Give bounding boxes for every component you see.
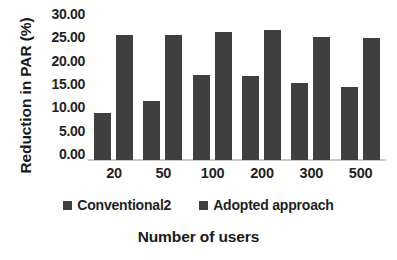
bar <box>313 37 330 160</box>
y-axis-tick-labels: 30.0025.0020.0015.0010.005.000.00 <box>38 12 85 168</box>
y-axis-tick-label: 25.00 <box>38 30 85 44</box>
y-axis-tick-label: 20.00 <box>38 54 85 68</box>
x-axis-tick-label: 50 <box>138 164 188 183</box>
legend-swatch-icon <box>63 201 72 210</box>
x-axis-tick-label: 200 <box>237 164 287 183</box>
bar <box>242 76 259 160</box>
bar-group <box>193 20 236 160</box>
bar-group <box>242 20 285 160</box>
x-axis-tick-label: 100 <box>188 164 238 183</box>
bar <box>116 35 133 160</box>
bar <box>363 38 380 160</box>
bar <box>291 83 308 160</box>
y-axis-tick-label: 30.00 <box>38 7 85 21</box>
bar-group <box>143 20 186 160</box>
x-axis-tick-label: 500 <box>336 164 386 183</box>
y-axis-tick-label: 5.00 <box>38 124 85 138</box>
y-axis-tick-label: 15.00 <box>38 77 85 91</box>
legend-item[interactable]: Conventional2 <box>63 197 171 213</box>
x-axis-title: Number of users <box>0 228 397 246</box>
bar <box>165 35 182 160</box>
legend-label: Adopted approach <box>213 197 333 213</box>
bar-group <box>291 20 334 160</box>
x-axis-tick-labels: 2050100200300500 <box>88 164 384 186</box>
legend-swatch-icon <box>199 201 208 210</box>
legend-item[interactable]: Adopted approach <box>199 197 333 213</box>
chart-legend: Conventional2Adopted approach <box>0 197 397 213</box>
y-axis-tick-label: 10.00 <box>38 100 85 114</box>
bar <box>341 87 358 160</box>
plot-area <box>88 20 384 160</box>
y-axis-tick-label: 0.00 <box>38 147 85 161</box>
legend-label: Conventional2 <box>77 197 171 213</box>
bar <box>94 113 111 160</box>
bar-group <box>341 20 384 160</box>
x-axis-tick-label: 300 <box>286 164 336 183</box>
bar <box>143 101 160 160</box>
bar <box>264 30 281 160</box>
bar <box>215 32 232 160</box>
chart-screenshot: Reduction in PAR (%) 30.0025.0020.0015.0… <box>0 0 397 260</box>
bar <box>193 75 210 160</box>
bar-group <box>94 20 137 160</box>
x-axis-tick-label: 20 <box>89 164 139 183</box>
